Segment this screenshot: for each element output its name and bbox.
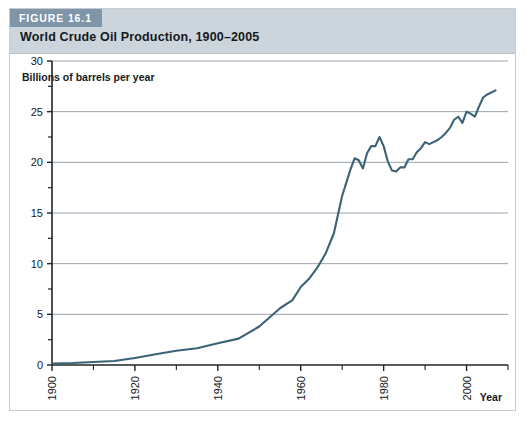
x-tick-label-group: 1960 (295, 376, 307, 400)
x-tick-label: 1960 (295, 376, 307, 400)
figure-container: FIGURE 16.1 World Crude Oil Production, … (9, 8, 516, 411)
x-tick-label-group: 1980 (378, 376, 390, 400)
x-tick-label-group: 1900 (46, 376, 58, 400)
x-tick-label-group: 1920 (129, 376, 141, 400)
x-tick-label-group: 1940 (212, 376, 224, 400)
x-tick-label: 1900 (46, 376, 58, 400)
x-tick-label: 1940 (212, 376, 224, 400)
figure-number-badge: FIGURE 16.1 (10, 9, 102, 27)
y-tick-label: 30 (31, 55, 43, 67)
figure-header: FIGURE 16.1 World Crude Oil Production, … (10, 9, 515, 54)
y-tick-label: 20 (31, 156, 43, 168)
y-tick-label: 25 (31, 106, 43, 118)
line-chart-plot: 051015202530190019201940196019802000 (10, 54, 517, 412)
y-tick-label: 0 (37, 359, 43, 371)
data-line-series-0 (52, 90, 496, 363)
y-tick-label: 5 (37, 308, 43, 320)
y-tick-label: 10 (31, 258, 43, 270)
x-tick-label: 1920 (129, 376, 141, 400)
x-tick-label: 1980 (378, 376, 390, 400)
x-tick-label-group: 2000 (461, 376, 473, 400)
y-tick-label: 15 (31, 207, 43, 219)
chart-region: Billions of barrels per year Year 051015… (10, 54, 515, 410)
x-tick-label: 2000 (461, 376, 473, 400)
figure-title: World Crude Oil Production, 1900–2005 (20, 30, 259, 44)
